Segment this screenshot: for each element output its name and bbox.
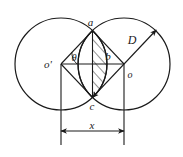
label-point-c: c bbox=[90, 100, 95, 112]
label-point-a: a bbox=[88, 16, 94, 28]
label-angle-theta: θ bbox=[71, 52, 76, 63]
geometry-figure: a b c o' o θ D x bbox=[0, 0, 183, 157]
label-diameter-D: D bbox=[127, 33, 137, 47]
label-center-left: o' bbox=[44, 58, 53, 70]
radius-line-o-prime-to-c bbox=[61, 64, 93, 97]
radius-line-o-prime-to-a bbox=[61, 31, 93, 64]
label-distance-x: x bbox=[89, 119, 95, 131]
figure-canvas: a b c o' o θ D x bbox=[0, 0, 183, 157]
label-center-right: o bbox=[128, 69, 133, 80]
label-point-b: b bbox=[105, 50, 111, 62]
